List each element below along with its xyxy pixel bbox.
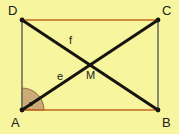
- vertex-dot-b: [156, 108, 161, 113]
- vertex-dot-c: [156, 18, 161, 23]
- geometry-figure: D C A B M f e: [0, 0, 179, 134]
- segment-label-e: e: [57, 70, 63, 82]
- vertex-label-a: A: [11, 115, 20, 130]
- vertex-label-d: D: [8, 3, 17, 18]
- vertex-label-b: B: [162, 115, 171, 130]
- vertex-label-c: C: [162, 3, 171, 18]
- figure-canvas: D C A B M f e: [0, 0, 179, 134]
- angle-marker-dot: [29, 102, 33, 106]
- vertex-dot-d: [20, 18, 25, 23]
- vertex-dot-a: [20, 108, 25, 113]
- intersection-label-m: M: [86, 69, 95, 81]
